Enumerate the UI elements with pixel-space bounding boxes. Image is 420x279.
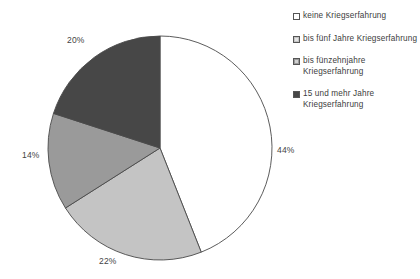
slice-value-label: 20% (67, 35, 85, 45)
legend-swatch-icon (293, 58, 300, 65)
slice-value-label: 22% (99, 256, 117, 266)
legend-swatch-icon (293, 36, 300, 43)
legend-item: 15 und mehr Jahre Kriegserfahrung (293, 89, 418, 110)
legend-item: keine Kriegserfahrung (293, 11, 418, 22)
legend-item: bis fünzehnjahre Kriegserfahrung (293, 56, 418, 77)
pie-plot-area: 44% 22% 14% 20% (0, 0, 290, 279)
legend-swatch-icon (293, 13, 300, 20)
pie-svg (0, 0, 290, 279)
legend-item-label: 15 und mehr Jahre Kriegserfahrung (303, 89, 418, 110)
slice-value-label: 44% (277, 145, 295, 155)
legend-item: bis fünf Jahre Kriegserfahrung (293, 34, 418, 45)
legend-item-label: bis fünzehnjahre Kriegserfahrung (303, 56, 418, 77)
legend-item-label: bis fünf Jahre Kriegserfahrung (303, 34, 417, 45)
pie-chart-figure: 44% 22% 14% 20% keine Kriegserfahrung bi… (0, 0, 420, 279)
chart-legend: keine Kriegserfahrung bis fünf Jahre Kri… (293, 11, 418, 122)
slice-value-label: 14% (22, 150, 40, 160)
legend-swatch-icon (293, 91, 300, 98)
legend-item-label: keine Kriegserfahrung (303, 11, 386, 22)
pie-slice-group (48, 36, 272, 260)
